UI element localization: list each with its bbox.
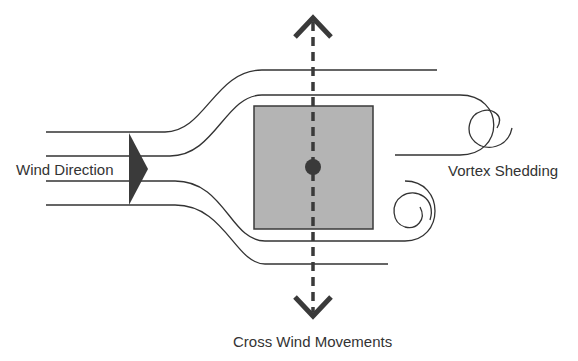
vortex-spiral-top bbox=[469, 110, 512, 147]
wind-direction-arrow-icon bbox=[129, 133, 148, 205]
vortex-shedding-label: Vortex Shedding bbox=[448, 162, 558, 179]
streamline-bottom-inner bbox=[46, 181, 435, 241]
wind-diagram: Wind Direction Vortex Shedding Cross Win… bbox=[0, 0, 578, 361]
vortex-spiral-bottom bbox=[394, 193, 431, 228]
streamline-top-outer bbox=[46, 70, 437, 132]
cross-wind-label: Cross Wind Movements bbox=[233, 333, 392, 350]
pivot-dot bbox=[305, 159, 321, 175]
wind-direction-label: Wind Direction bbox=[16, 161, 114, 178]
